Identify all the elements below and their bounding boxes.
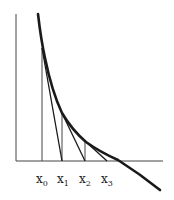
vertical-lines <box>42 48 85 161</box>
newton-method-diagram: x0x1x2x3 <box>0 0 174 200</box>
label-x0: x0 <box>36 172 48 188</box>
function-curve <box>38 14 160 190</box>
label-x1: x1 <box>57 172 69 188</box>
label-x2: x2 <box>79 172 91 188</box>
tangent-lines <box>42 48 107 161</box>
label-x3: x3 <box>101 172 113 188</box>
x-iterate-labels: x0x1x2x3 <box>36 172 113 188</box>
